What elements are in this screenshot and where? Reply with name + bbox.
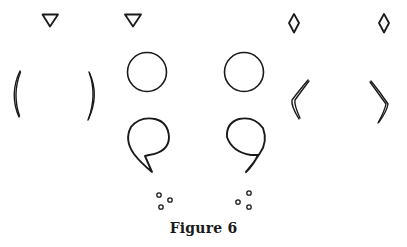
circle-right-icon — [225, 53, 264, 92]
diamond-right-icon — [379, 14, 389, 33]
circle-left-icon — [128, 53, 167, 92]
inverted-triangle-right-icon — [125, 15, 141, 27]
figure-canvas — [0, 0, 407, 247]
comma-shape-left-icon — [128, 118, 169, 172]
figure-caption: Figure 6 — [0, 220, 407, 236]
comma-shape-right-icon — [227, 118, 265, 172]
figure-6: Figure 6 — [0, 0, 407, 247]
dot-cluster-left-icon — [157, 193, 172, 209]
dot-cluster-right-icon — [236, 191, 251, 209]
diamond-left-icon — [289, 14, 299, 33]
left-parenthesis-icon — [14, 71, 20, 117]
left-angle-bracket-icon — [292, 80, 309, 119]
right-angle-bracket-icon — [370, 81, 388, 123]
inverted-triangle-left-icon — [43, 15, 59, 27]
right-parenthesis-icon — [88, 72, 94, 120]
